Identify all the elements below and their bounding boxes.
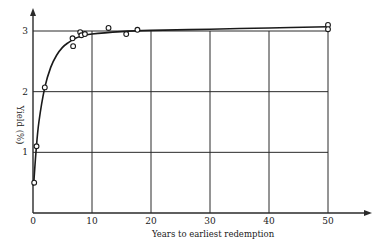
tick-labels: 01020304050123 <box>22 26 334 226</box>
axes <box>30 8 372 216</box>
data-point <box>42 85 47 90</box>
y-axis-arrow-icon <box>30 8 36 16</box>
yield-chart: 01020304050123 Years to earliest redempt… <box>0 0 384 245</box>
y-tick-label: 3 <box>22 26 28 36</box>
x-tick-label: 50 <box>322 216 334 226</box>
data-point <box>34 144 39 149</box>
y-axis-label: Yield (%) <box>15 105 25 145</box>
fitted-curve-layer <box>34 27 328 186</box>
data-point <box>32 180 37 185</box>
y-tick-label: 2 <box>22 87 28 97</box>
data-point <box>326 27 331 32</box>
x-tick-label: 0 <box>30 216 36 226</box>
data-point <box>70 36 75 41</box>
data-point <box>83 32 88 37</box>
data-point <box>124 32 129 37</box>
data-point <box>71 44 76 49</box>
data-point <box>135 27 140 32</box>
x-axis-arrow-icon <box>364 210 372 216</box>
x-axis-label: Years to earliest redemption <box>151 229 275 239</box>
grid-lines <box>33 31 328 213</box>
fitted-yield-curve <box>34 27 328 186</box>
y-tick-label: 1 <box>22 147 28 157</box>
data-points <box>32 23 331 186</box>
x-tick-label: 10 <box>86 216 98 226</box>
x-tick-label: 20 <box>145 216 157 226</box>
data-point <box>106 26 111 31</box>
x-tick-label: 40 <box>263 216 275 226</box>
x-tick-label: 30 <box>204 216 216 226</box>
